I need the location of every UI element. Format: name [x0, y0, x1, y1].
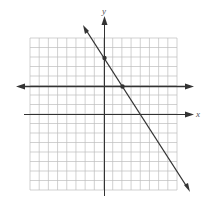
arrow-right-icon	[185, 84, 194, 90]
point-y-intercept	[102, 56, 106, 60]
y-axis-label: y	[101, 6, 106, 16]
arrow-left-icon	[16, 84, 25, 90]
slanted-line	[83, 25, 190, 192]
point-intersection	[120, 84, 124, 88]
coordinate-plane: x y	[0, 0, 213, 207]
y-axis-arrow-icon	[102, 16, 108, 25]
x-axis: x	[24, 109, 200, 119]
x-axis-arrow-icon	[185, 112, 194, 118]
x-axis-label: x	[195, 109, 200, 119]
y-axis: y	[101, 6, 108, 196]
